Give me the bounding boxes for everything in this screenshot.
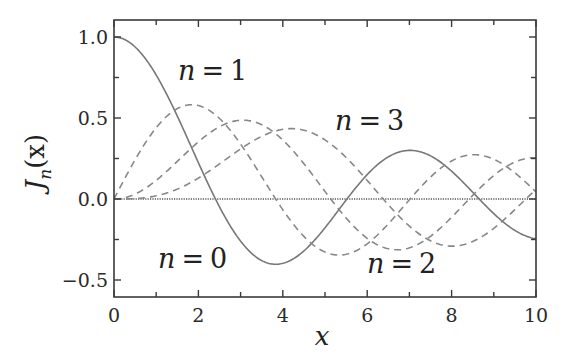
- bessel-chart: 0246810−0.50.00.51.0 x Jn(x) n=1 n=3 n=0…: [0, 0, 577, 359]
- x-tick-label: 10: [524, 304, 548, 326]
- x-tick-label: 6: [361, 304, 373, 326]
- annotation-n2: n=2: [367, 248, 436, 279]
- series-line-n1: [114, 105, 536, 255]
- svg-text:Jn(x): Jn(x): [20, 134, 55, 195]
- y-tick-label: 1.0: [78, 26, 108, 48]
- x-tick-label: 2: [192, 304, 204, 326]
- y-label-sub: n: [35, 169, 55, 180]
- y-axis-label: Jn(x): [20, 134, 55, 195]
- tick-labels: 0246810−0.50.00.51.0: [62, 26, 548, 326]
- x-tick-label: 0: [108, 304, 120, 326]
- y-tick-label: 0.5: [78, 107, 108, 129]
- x-axis-label: x: [315, 321, 330, 351]
- y-label-arg: (x): [20, 134, 50, 169]
- annotation-n3: n=3: [335, 105, 404, 136]
- annotation-n0: n=0: [158, 243, 227, 274]
- y-tick-label: 0.0: [78, 188, 108, 210]
- y-label-main: J: [20, 178, 50, 195]
- x-tick-label: 8: [446, 304, 458, 326]
- annotation-n1: n=1: [178, 55, 247, 86]
- y-tick-label: −0.5: [62, 269, 108, 291]
- x-tick-label: 4: [277, 304, 289, 326]
